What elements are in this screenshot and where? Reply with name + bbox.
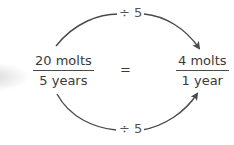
right-numerator: 4 molts: [176, 53, 229, 71]
equals-sign: =: [120, 62, 131, 77]
bottom-arrow-label: ÷ 5: [117, 121, 144, 136]
left-denominator: 5 years: [33, 71, 94, 88]
top-arrow-label: ÷ 5: [117, 5, 144, 20]
left-fraction: 20 molts 5 years: [33, 53, 94, 88]
left-numerator: 20 molts: [33, 53, 94, 71]
right-denominator: 1 year: [176, 71, 229, 88]
right-fraction: 4 molts 1 year: [176, 53, 229, 88]
